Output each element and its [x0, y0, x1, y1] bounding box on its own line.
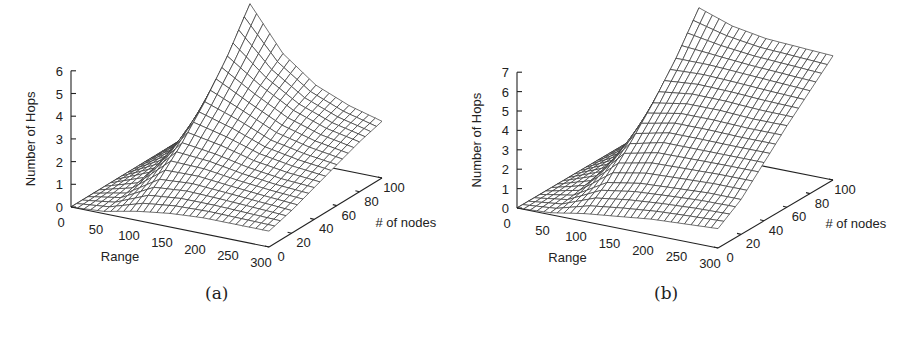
range-tick-label: 200 [184, 242, 206, 257]
range-tick-label: 50 [535, 223, 549, 238]
range-tick-label: 50 [89, 222, 103, 237]
range-tick-label: 0 [503, 216, 510, 231]
range-axis-title: Range [548, 250, 586, 265]
z-tick-label: 1 [502, 182, 509, 197]
z-tick-label: 5 [56, 87, 63, 102]
nodes-tick-label: 100 [383, 180, 405, 195]
z-tick-label: 5 [502, 104, 509, 119]
caption-b: (b) [654, 283, 678, 303]
range-axis-title: Range [101, 249, 139, 264]
range-tick-label: 150 [151, 235, 173, 250]
z-tick-label: 7 [502, 65, 509, 80]
z-tick-label: 0 [56, 200, 63, 215]
z-tick-label: 6 [56, 64, 63, 79]
surface-mesh [517, 8, 833, 229]
range-tick-label: 300 [250, 255, 272, 270]
range-tick-label: 250 [666, 249, 688, 264]
chart-panel-b: 01234567050100150200250300020406080100Nu… [449, 0, 897, 339]
z-axis-title: Number of Hops [23, 91, 38, 186]
caption-a: (a) [205, 283, 228, 303]
range-tick-label: 300 [699, 256, 721, 271]
z-tick-label: 1 [56, 177, 63, 192]
z-tick-label: 6 [502, 85, 509, 100]
nodes-tick-label: 20 [296, 235, 310, 250]
z-tick-label: 4 [56, 109, 63, 124]
range-tick-label: 250 [217, 248, 239, 263]
z-tick-label: 3 [56, 132, 63, 147]
nodes-tick-label: 40 [319, 221, 333, 236]
nodes-axis-title: # of nodes [826, 216, 887, 231]
range-tick-label: 150 [599, 236, 621, 251]
nodes-tick-label: 80 [815, 196, 829, 211]
nodes-tick-label: 60 [792, 209, 806, 224]
nodes-tick-label: 40 [769, 223, 783, 238]
range-tick-label: 200 [632, 243, 654, 258]
z-tick-label: 0 [502, 201, 509, 216]
surface-mesh [71, 4, 382, 231]
range-tick-label: 0 [57, 215, 64, 230]
nodes-tick-label: 80 [364, 194, 378, 209]
range-tick-label: 100 [118, 228, 140, 243]
nodes-tick-label: 0 [726, 250, 733, 265]
nodes-axis-title: # of nodes [376, 215, 437, 230]
chart-panel-a: 0123456050100150200250300020406080100Num… [0, 0, 448, 339]
nodes-tick-label: 100 [834, 182, 856, 197]
nodes-tick-label: 60 [342, 208, 356, 223]
nodes-tick-label: 20 [746, 236, 760, 251]
z-axis-title: Number of Hops [469, 92, 484, 187]
nodes-tick-label: 0 [277, 249, 284, 264]
range-tick-label: 100 [565, 229, 587, 244]
z-tick-label: 3 [502, 143, 509, 158]
z-tick-label: 2 [502, 162, 509, 177]
z-tick-label: 4 [502, 123, 509, 138]
z-tick-label: 2 [56, 155, 63, 170]
